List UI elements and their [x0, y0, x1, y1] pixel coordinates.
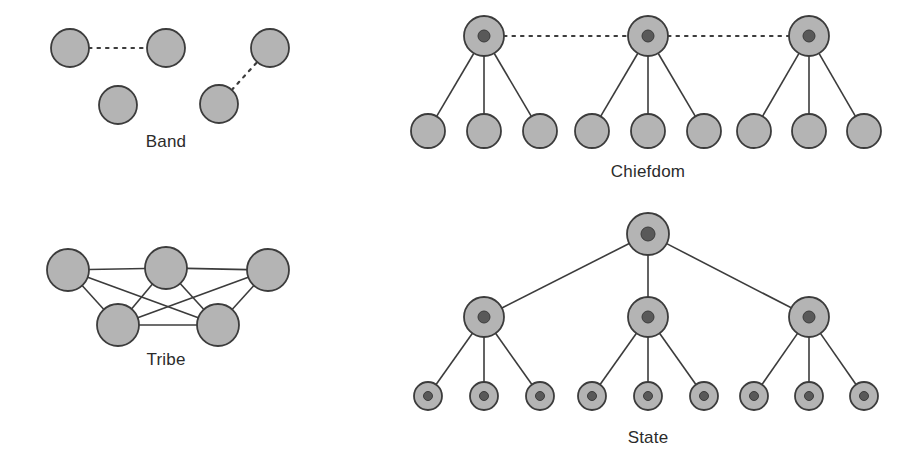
- chiefdom-follower-4-body: [575, 114, 609, 148]
- state-unit-8[interactable]: [795, 382, 823, 410]
- state-official-1[interactable]: [464, 297, 504, 337]
- chiefdom-follower-4[interactable]: [575, 114, 609, 148]
- chiefdom-chief-2-core: [642, 30, 654, 42]
- state-unit-2-core: [480, 392, 489, 401]
- panel-band: Band: [51, 29, 289, 151]
- state-unit-3[interactable]: [526, 382, 554, 410]
- band-node-5-body: [200, 85, 238, 123]
- chiefdom-follower-5[interactable]: [631, 114, 665, 148]
- chiefdom-follower-3[interactable]: [523, 114, 557, 148]
- diagram-canvas: BandTribeChiefdomState: [0, 0, 915, 466]
- panel-label-tribe: Tribe: [146, 350, 185, 369]
- chiefdom-follower-3-body: [523, 114, 557, 148]
- chiefdom-chief-2[interactable]: [628, 16, 668, 56]
- tribe-node-5-body: [197, 304, 239, 346]
- band-node-3[interactable]: [251, 29, 289, 67]
- edge-state-3-solid: [436, 333, 472, 384]
- edge-state-0-solid: [502, 243, 629, 307]
- state-unit-1[interactable]: [414, 382, 442, 410]
- tribe-node-2-body: [145, 247, 187, 289]
- chiefdom-follower-9[interactable]: [847, 114, 881, 148]
- edge-chiefdom-10-solid: [819, 53, 855, 116]
- band-node-1-body: [51, 29, 89, 67]
- state-unit-7-core: [750, 392, 759, 401]
- state-unit-4-core: [588, 392, 597, 401]
- tribe-node-2[interactable]: [145, 247, 187, 289]
- edge-tribe-0-solid: [89, 268, 145, 269]
- state-official-3-core: [803, 311, 815, 323]
- state-unit-5[interactable]: [634, 382, 662, 410]
- chiefdom-chief-3-core: [803, 30, 815, 42]
- chiefdom-follower-8[interactable]: [792, 114, 826, 148]
- chiefdom-chief-3[interactable]: [789, 16, 829, 56]
- state-official-2-core: [642, 311, 654, 323]
- state-official-1-core: [478, 311, 490, 323]
- edge-state-9-solid: [762, 333, 798, 384]
- state-ruler[interactable]: [627, 213, 669, 255]
- edge-state-5-solid: [496, 333, 532, 384]
- edge-chiefdom-7-solid: [658, 53, 695, 116]
- panel-band-nodes: [51, 29, 289, 124]
- tribe-node-5[interactable]: [197, 304, 239, 346]
- band-node-4[interactable]: [99, 86, 137, 124]
- band-node-5[interactable]: [200, 85, 238, 123]
- band-node-3-body: [251, 29, 289, 67]
- state-unit-6-core: [700, 392, 709, 401]
- chiefdom-follower-7[interactable]: [737, 114, 771, 148]
- edge-state-11-solid: [820, 333, 856, 384]
- social-organization-diagram: BandTribeChiefdomState: [0, 0, 915, 466]
- chiefdom-follower-2[interactable]: [467, 114, 501, 148]
- state-official-3[interactable]: [789, 297, 829, 337]
- state-ruler-core: [641, 227, 655, 241]
- tribe-node-3[interactable]: [247, 249, 289, 291]
- tribe-node-4[interactable]: [97, 304, 139, 346]
- chiefdom-follower-1-body: [411, 114, 445, 148]
- chiefdom-follower-1[interactable]: [411, 114, 445, 148]
- edge-tribe-4-solid: [132, 284, 153, 309]
- panel-label-chiefdom: Chiefdom: [611, 162, 685, 181]
- band-node-2[interactable]: [147, 29, 185, 67]
- chiefdom-follower-9-body: [847, 114, 881, 148]
- chiefdom-follower-2-body: [467, 114, 501, 148]
- band-node-1[interactable]: [51, 29, 89, 67]
- tribe-node-1[interactable]: [47, 249, 89, 291]
- edge-chiefdom-4-solid: [494, 53, 531, 116]
- edge-state-6-solid: [600, 333, 636, 384]
- panel-label-band: Band: [146, 132, 187, 151]
- edge-state-2-solid: [667, 244, 792, 308]
- chiefdom-chief-1-core: [478, 30, 490, 42]
- state-unit-6[interactable]: [690, 382, 718, 410]
- edge-chiefdom-5-solid: [601, 53, 638, 116]
- state-unit-4[interactable]: [578, 382, 606, 410]
- edge-band-1-dotted: [232, 62, 257, 90]
- chiefdom-follower-8-body: [792, 114, 826, 148]
- state-unit-3-core: [536, 392, 545, 401]
- panel-tribe-nodes: [47, 247, 289, 346]
- state-official-2[interactable]: [628, 297, 668, 337]
- chiefdom-follower-6[interactable]: [687, 114, 721, 148]
- edge-chiefdom-8-solid: [763, 53, 799, 116]
- state-unit-2[interactable]: [470, 382, 498, 410]
- state-unit-7[interactable]: [740, 382, 768, 410]
- chiefdom-follower-5-body: [631, 114, 665, 148]
- panel-state: State: [414, 213, 878, 447]
- panels-layer: BandTribeChiefdomState: [47, 16, 881, 447]
- state-unit-1-core: [424, 392, 433, 401]
- band-node-4-body: [99, 86, 137, 124]
- state-unit-8-core: [805, 392, 814, 401]
- tribe-node-3-body: [247, 249, 289, 291]
- chiefdom-chief-1[interactable]: [464, 16, 504, 56]
- edge-tribe-7-solid: [232, 286, 254, 310]
- edge-tribe-1-solid: [187, 268, 247, 269]
- panel-tribe: Tribe: [47, 247, 289, 369]
- edge-state-8-solid: [660, 333, 696, 384]
- panel-chiefdom: Chiefdom: [411, 16, 881, 181]
- edge-chiefdom-2-solid: [437, 53, 474, 116]
- state-unit-9-core: [860, 392, 869, 401]
- edge-tribe-2-solid: [82, 286, 104, 310]
- tribe-node-4-body: [97, 304, 139, 346]
- chiefdom-follower-7-body: [737, 114, 771, 148]
- tribe-node-1-body: [47, 249, 89, 291]
- state-unit-9[interactable]: [850, 382, 878, 410]
- chiefdom-follower-6-body: [687, 114, 721, 148]
